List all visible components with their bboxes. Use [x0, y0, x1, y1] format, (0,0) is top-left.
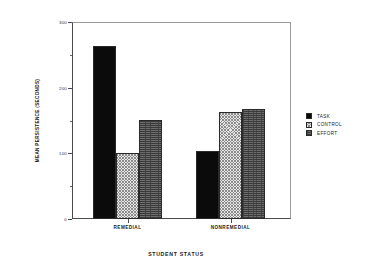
legend-label-task: TASK: [317, 114, 330, 119]
bar-remedial-effort: [139, 120, 162, 219]
bar-nonremedial-task: [196, 151, 219, 219]
bar-nonremedial-effort: [242, 109, 265, 219]
legend-item-task: TASK: [306, 112, 342, 121]
legend-item-control: CONTROL: [306, 121, 342, 130]
x-tick-remedial: [128, 219, 129, 223]
legend-swatch-effort-icon: [306, 130, 312, 136]
y-tick-label-300: 300: [59, 20, 67, 25]
plot-area: 300 200 100 0: [72, 22, 291, 219]
legend-swatch-control-icon: [306, 122, 312, 128]
legend-swatch-task-icon: [306, 113, 312, 119]
x-tick-label-remedial: REMEDIAL: [114, 225, 142, 230]
legend-label-effort: EFFORT: [317, 131, 337, 136]
legend-label-control: CONTROL: [317, 122, 342, 127]
y-tick-label-100: 100: [59, 151, 67, 156]
x-tick-nonremedial: [231, 219, 232, 223]
bar-remedial-control: [116, 153, 139, 219]
legend-item-effort: EFFORT: [306, 129, 342, 138]
bar-chart-figure: MEAN PERSISTENCE (SECONDS) 300 200 100 0: [0, 0, 374, 268]
x-tick-label-nonremedial: NONREMEDIAL: [211, 225, 251, 230]
chart-legend: TASK CONTROL EFFORT: [306, 112, 342, 138]
y-axis-title: MEAN PERSISTENCE (SECONDS): [35, 41, 40, 201]
y-tick-label-0: 0: [64, 217, 67, 222]
bar-nonremedial-control: [219, 112, 242, 219]
x-axis-title: STUDENT STATUS: [56, 251, 296, 257]
bar-remedial-task: [93, 46, 116, 219]
y-tick-label-200: 200: [59, 85, 67, 90]
